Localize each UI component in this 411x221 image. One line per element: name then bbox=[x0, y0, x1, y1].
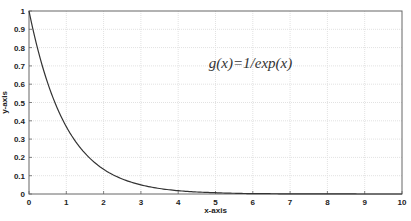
x-tick-label: 4 bbox=[176, 198, 181, 207]
y-tick-labels: 00.10.20.30.40.50.60.70.80.91 bbox=[14, 7, 26, 199]
grid-lines bbox=[29, 11, 402, 194]
y-tick-label: 1 bbox=[21, 7, 26, 16]
line-chart: 012345678910 00.10.20.30.40.50.60.70.80.… bbox=[0, 0, 411, 221]
x-tick-label: 10 bbox=[398, 198, 407, 207]
y-tick-label: 0.3 bbox=[14, 135, 26, 144]
x-tick-label: 3 bbox=[139, 198, 144, 207]
x-tick-label: 9 bbox=[362, 198, 367, 207]
y-tick-label: 0 bbox=[21, 190, 26, 199]
x-tick-label: 6 bbox=[251, 198, 256, 207]
x-tick-label: 7 bbox=[288, 198, 293, 207]
y-tick-label: 0.1 bbox=[14, 172, 26, 181]
y-tick-label: 0.8 bbox=[14, 44, 26, 53]
x-tick-label: 0 bbox=[27, 198, 32, 207]
x-tick-label: 8 bbox=[325, 198, 330, 207]
y-axis-label: y-axis bbox=[0, 91, 9, 114]
y-tick-label: 0.2 bbox=[14, 153, 26, 162]
y-tick-label: 0.9 bbox=[14, 25, 26, 34]
y-tick-label: 0.5 bbox=[14, 99, 26, 108]
y-tick-label: 0.4 bbox=[14, 117, 26, 126]
x-tick-label: 2 bbox=[101, 198, 106, 207]
x-axis-label: x-axis bbox=[204, 206, 227, 215]
y-tick-label: 0.7 bbox=[14, 62, 26, 71]
y-tick-label: 0.6 bbox=[14, 80, 26, 89]
function-annotation: g(x)=1/exp(x) bbox=[209, 55, 292, 72]
x-tick-label: 1 bbox=[64, 198, 69, 207]
